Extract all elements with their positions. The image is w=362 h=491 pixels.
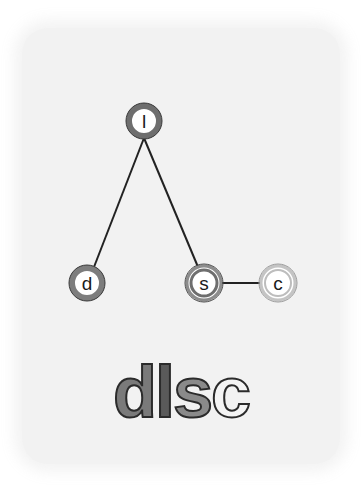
word-letter-l: l bbox=[155, 352, 173, 432]
node-label-l: l bbox=[142, 111, 146, 132]
node-label-d: d bbox=[82, 273, 93, 294]
node-c: c bbox=[259, 264, 297, 302]
node-d: d bbox=[69, 265, 105, 301]
word-letter-c: c bbox=[211, 352, 249, 432]
node-s: s bbox=[185, 264, 223, 302]
word-logo: dlsc bbox=[0, 356, 362, 428]
word-letter-d: d bbox=[113, 352, 155, 432]
word-letter-s: s bbox=[173, 352, 211, 432]
edge-l-d bbox=[94, 138, 144, 267]
edge-l-s bbox=[144, 138, 198, 267]
node-label-c: c bbox=[273, 273, 283, 294]
node-l: l bbox=[126, 103, 162, 139]
node-label-s: s bbox=[199, 273, 209, 294]
